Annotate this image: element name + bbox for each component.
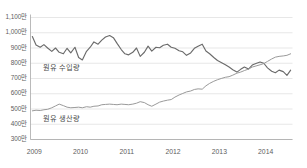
x-axis-tick-label: 2009 bbox=[14, 149, 54, 156]
x-axis-tick-label: 2012 bbox=[153, 149, 193, 156]
y-axis-tick-label: 1,100만 bbox=[6, 14, 27, 20]
chart-plot-area bbox=[0, 0, 307, 168]
y-axis-tick-label: 1,000만 bbox=[6, 29, 27, 35]
x-axis-tick-label: 2011 bbox=[107, 149, 147, 156]
x-axis-tick-label: 2010 bbox=[60, 149, 100, 156]
series-label-imports: 원유 수입량 bbox=[43, 64, 79, 71]
y-axis-tick-label: 500만 bbox=[11, 106, 27, 112]
y-axis-tick-label: 800만 bbox=[11, 60, 27, 66]
y-axis-tick-label: 700만 bbox=[11, 75, 27, 81]
crude-oil-line-chart: 1,100만1,000만900만800만700만600만500만400만300만… bbox=[0, 0, 307, 168]
y-axis-tick-label: 900만 bbox=[11, 45, 27, 51]
y-axis-tick-label: 600만 bbox=[11, 90, 27, 96]
x-axis-tick-label: 2014 bbox=[246, 149, 286, 156]
y-axis-tick-label: 400만 bbox=[11, 121, 27, 127]
y-axis-tick-label: 300만 bbox=[11, 136, 27, 142]
x-axis-tick-label: 2013 bbox=[199, 149, 239, 156]
series-label-production: 원유 생산량 bbox=[43, 115, 79, 122]
